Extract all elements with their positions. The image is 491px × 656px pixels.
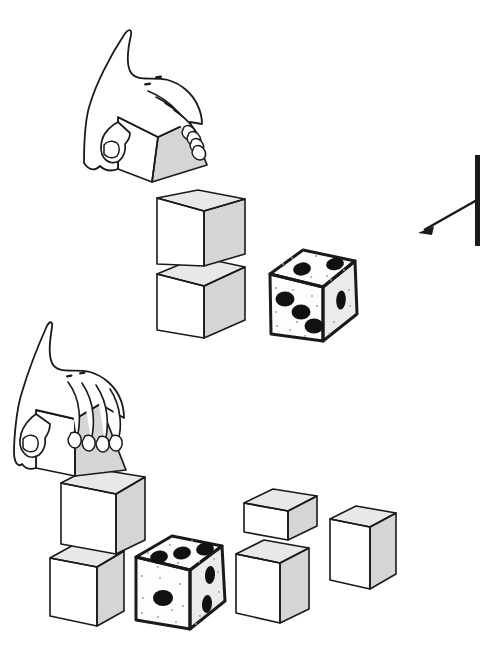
cube-face-left [50,558,97,626]
cube-stack-of-two [157,190,245,338]
thumb-nail [104,141,119,157]
cube-face-left [330,519,370,589]
fingertip-1 [68,432,81,448]
fingertip-2 [82,435,95,451]
cube-face-left [61,483,116,554]
die-pips-front [153,590,173,606]
cube-stack-lower-cube [50,543,124,626]
fingertip-4 [109,435,122,451]
cube-face-left [236,554,280,623]
illustration-canvas [0,0,491,656]
loose-cube-front [236,540,309,623]
fingertip-3 [96,436,109,452]
thumb-nail [23,435,38,451]
loose-cube-back-right [330,506,396,589]
cube-stack-lower-cube [157,257,245,338]
cube-stack-upper-cube [157,190,245,266]
cube-stack-upper-cube [61,468,145,554]
fingertip-4 [192,146,206,160]
